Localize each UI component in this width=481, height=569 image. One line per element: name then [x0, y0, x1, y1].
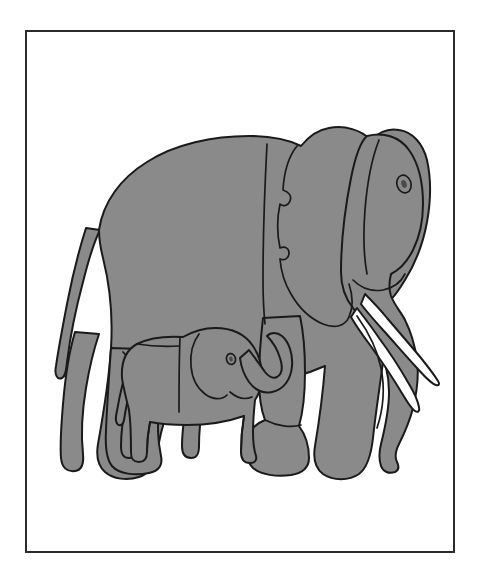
elephant-illustration-svg: .body { fill: #8a8a8a; stroke: #1a1a1a; … [27, 32, 457, 555]
scan-header-text [0, 0, 481, 9]
page-canvas: .body { fill: #8a8a8a; stroke: #1a1a1a; … [0, 0, 481, 569]
baby-shoulder-line [179, 338, 180, 412]
figure-frame: .body { fill: #8a8a8a; stroke: #1a1a1a; … [25, 30, 455, 553]
elephant-illustration: .body { fill: #8a8a8a; stroke: #1a1a1a; … [27, 32, 457, 555]
